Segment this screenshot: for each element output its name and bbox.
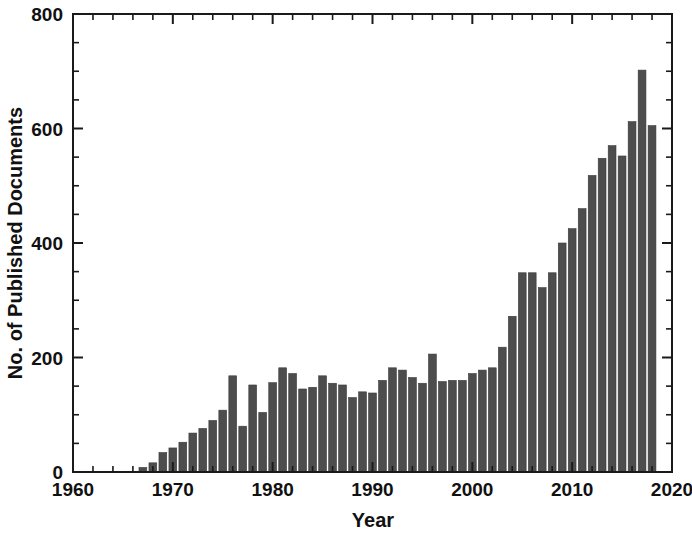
- bar-1981: [279, 368, 287, 472]
- bar-2013: [598, 158, 606, 472]
- bar-1988: [349, 398, 357, 472]
- bar-2016: [628, 122, 636, 472]
- bar-series: [79, 70, 656, 472]
- bar-2010: [568, 229, 576, 472]
- bar-1991: [379, 380, 387, 472]
- bar-1977: [239, 426, 247, 472]
- bar-1979: [259, 412, 267, 472]
- bar-1980: [269, 383, 277, 472]
- bar-2017: [638, 70, 646, 472]
- bar-1983: [299, 389, 307, 472]
- y-tick-label-0: 0: [52, 462, 63, 483]
- bar-2000: [468, 374, 476, 472]
- bar-1993: [399, 370, 407, 472]
- bar-1990: [369, 393, 377, 472]
- bar-2005: [518, 273, 526, 472]
- bar-2001: [478, 370, 486, 472]
- y-tick-label-600: 600: [31, 119, 63, 140]
- bar-1976: [229, 376, 237, 472]
- bar-2012: [588, 175, 596, 472]
- bar-1995: [419, 383, 427, 472]
- published-documents-bar-chart: 1960197019801990200020102020 02004006008…: [0, 0, 692, 534]
- bar-1984: [309, 387, 317, 472]
- bar-1998: [448, 380, 456, 472]
- bar-2002: [488, 368, 496, 472]
- y-tick-label-800: 800: [31, 4, 63, 25]
- bar-1973: [199, 428, 207, 472]
- bar-1975: [219, 410, 227, 472]
- bar-2007: [538, 288, 546, 472]
- bar-1982: [289, 374, 297, 472]
- bar-2009: [558, 243, 566, 472]
- bar-1996: [429, 354, 437, 472]
- bar-1971: [179, 442, 187, 472]
- x-tick-label-2020: 2020: [651, 479, 692, 500]
- bar-2018: [648, 126, 656, 472]
- x-axis-title: Year: [352, 509, 394, 531]
- x-tick-label-1970: 1970: [152, 479, 194, 500]
- bar-1978: [249, 385, 257, 472]
- y-axis-tick-labels: 0200400600800: [31, 4, 63, 483]
- bar-2011: [578, 209, 586, 472]
- bar-1997: [438, 382, 446, 472]
- chart-figure: 1960197019801990200020102020 02004006008…: [0, 0, 692, 534]
- bar-2003: [498, 347, 506, 472]
- bar-2004: [508, 316, 516, 472]
- bar-1989: [359, 392, 367, 472]
- bar-2015: [618, 156, 626, 472]
- y-axis-title: No. of Published Documents: [4, 107, 26, 379]
- y-tick-label-400: 400: [31, 233, 63, 254]
- bar-2008: [548, 273, 556, 472]
- x-tick-label-1990: 1990: [351, 479, 393, 500]
- bar-2014: [608, 146, 616, 472]
- bar-1999: [458, 380, 466, 472]
- bar-1992: [389, 368, 397, 472]
- x-axis-tick-labels: 1960197019801990200020102020: [52, 479, 692, 500]
- bar-2006: [528, 273, 536, 472]
- bar-1987: [339, 385, 347, 472]
- x-tick-label-1980: 1980: [252, 479, 294, 500]
- x-tick-label-2000: 2000: [451, 479, 493, 500]
- bar-1969: [159, 453, 167, 472]
- x-tick-label-2010: 2010: [551, 479, 593, 500]
- bar-1986: [329, 383, 337, 472]
- bar-1994: [409, 378, 417, 472]
- bar-1974: [209, 420, 217, 472]
- bar-1985: [319, 376, 327, 472]
- y-tick-label-200: 200: [31, 348, 63, 369]
